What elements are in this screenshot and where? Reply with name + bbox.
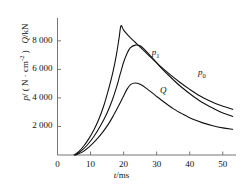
chart-figure: 2 0004 0006 0008 000 01020304050 p/ ( N … — [0, 0, 243, 188]
x-tick-label: 40 — [175, 160, 205, 169]
curve-label-p0: p0 — [198, 67, 206, 79]
curve-p0 — [74, 26, 233, 155]
x-axis-label-unit: /ms — [116, 170, 129, 180]
x-tick-label: 30 — [142, 160, 172, 169]
curve-label-p1: p1 — [152, 47, 160, 59]
data-curves — [74, 26, 233, 155]
y-axis-label-var1: p — [20, 96, 30, 101]
y-axis-label-var2: Q — [20, 37, 30, 44]
y-axis-label: p/ ( N · cm-2 ) Q/kN — [14, 0, 28, 127]
y-axis-label-unit2: /kN — [20, 24, 30, 38]
y-axis-label-close1: ) — [20, 50, 30, 55]
curve-label-Q: Q — [160, 85, 167, 95]
x-tick-marks — [91, 152, 223, 156]
axes — [58, 18, 237, 155]
curve-label-subscript: 0 — [202, 72, 205, 79]
curve-label-subscript: 1 — [156, 52, 159, 59]
x-tick-label: 0 — [43, 160, 73, 169]
x-tick-label: 20 — [109, 160, 139, 169]
y-axis-label-exp1: -2 — [18, 56, 25, 61]
x-tick-label: 10 — [76, 160, 106, 169]
y-axis-label-unit1: / ( N · cm — [20, 61, 30, 96]
y-tick-marks — [58, 41, 62, 127]
x-tick-label: 50 — [208, 160, 238, 169]
x-axis-label: t/ms — [0, 170, 243, 180]
curve-label-base: Q — [160, 85, 167, 95]
